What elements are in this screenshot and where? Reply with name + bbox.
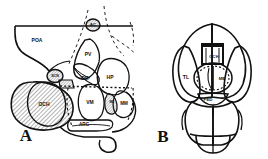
label-och-b: OCH: [209, 54, 218, 59]
label-scn: SCN: [51, 74, 59, 78]
optic-recess: [59, 80, 74, 88]
label-mm: MM: [120, 101, 128, 106]
label-och-a: OCH: [38, 101, 50, 107]
label-poa: POA: [32, 37, 43, 43]
panel-b-letter: B: [157, 127, 168, 146]
panel-a-letter: A: [20, 126, 33, 145]
label-hp: HP: [107, 74, 115, 80]
label-vm: VM: [86, 99, 94, 105]
figure-container: A AC POA PV SCN DM HP OCH VM ML MM ARC: [0, 0, 268, 159]
label-me: ME: [219, 76, 226, 81]
anatomy-figure-svg: A AC POA PV SCN DM HP OCH VM ML MM ARC: [0, 0, 268, 159]
label-pv: PV: [85, 51, 92, 57]
label-tl: TL: [183, 74, 190, 80]
label-dm: DM: [81, 76, 88, 81]
label-ped: PED: [203, 97, 212, 102]
label-ac: AC: [90, 22, 97, 27]
och-block-top-bar: [202, 43, 223, 47]
label-ml: ML: [110, 100, 115, 104]
label-arc: ARC: [79, 122, 90, 127]
